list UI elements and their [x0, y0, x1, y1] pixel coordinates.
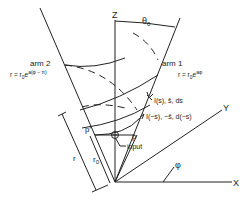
arm1-equation: r = r0eaφ [178, 69, 203, 80]
cone-edge-left [40, 8, 115, 182]
arm2-label: arm 2 [30, 59, 51, 68]
reverse-current-label: I(−s), −ŝ, d(−s) [146, 113, 192, 121]
point-p-prime-label: p' [85, 125, 91, 134]
arm2-equation: r = r0ea(φ − π) [10, 69, 47, 80]
forward-current-label: I(s), ŝ, ds [154, 97, 183, 105]
r-dimension-label: r [73, 154, 76, 163]
antenna-diagram: Z Y X φ θ0 arm 2 r = r0ea(φ − π) arm 1 r… [0, 0, 247, 203]
phi-leader [163, 167, 174, 182]
phi-label: φ [175, 160, 181, 170]
arm1-spiral-front-upper [80, 75, 158, 110]
y-axis-label: Y [223, 103, 229, 113]
arm1-spiral-front-middle [82, 105, 150, 128]
point-p-label: p [132, 132, 137, 141]
arm2-spiral-front [65, 58, 125, 66]
arm1-label: arm 1 [162, 59, 183, 68]
x-axis-label: X [233, 178, 239, 188]
arm1-spiral-back-top [133, 33, 158, 60]
dim-r-tick-top [58, 112, 66, 116]
z-axis-label: Z [112, 10, 118, 20]
theta-label: θ0 [142, 16, 151, 27]
input-label: input [127, 143, 142, 151]
input-leader [116, 139, 126, 146]
